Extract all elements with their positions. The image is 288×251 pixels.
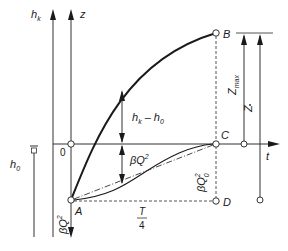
hk-minus-h0-label: hk – h0 [132,111,164,125]
hk-minus-h0-dimension [119,90,125,143]
origin-label: 0 [60,147,66,158]
arrow-up-icon [68,9,74,20]
point-b-label: B [223,28,230,40]
z-max-label: Zmax [226,75,240,96]
origin-point [68,141,74,147]
beta-q2-dimension [119,145,125,184]
z-axis-label: z [79,8,86,20]
z-bar-dimension [257,34,263,203]
point-a-label: A [74,205,82,217]
z-max-dimension [241,34,247,147]
hk-axis-label: hk [31,8,41,22]
surge-tank-diagram: hk z t 0 h0 A B C D [0,0,288,251]
diagram-canvas: hk z t 0 h0 A B C D [0,0,288,251]
arrow-up-icon [50,9,56,20]
t-over-4-label: T 4 [137,206,147,231]
arrow-right-icon [268,141,280,147]
beta-q2-label: βQ2 [129,153,149,166]
point-c-label: C [221,129,229,141]
h0-label: h0 [10,158,20,172]
point-c [213,141,219,147]
point-d-label: D [223,196,231,208]
point-a [68,197,74,203]
h0-dimension [30,146,38,237]
point-b [213,30,219,36]
svg-text:4: 4 [139,220,145,231]
t-axis-label: t [266,150,270,162]
svg-text:T: T [139,206,146,217]
point-d [213,198,219,204]
hk-axis [50,9,56,237]
z-bar-label: Z [242,104,254,113]
beta-q0-2-label: βQ20 [194,173,210,193]
beta-q2-axis-label: βQ2 [56,215,69,235]
z-bar-dot [249,104,251,106]
